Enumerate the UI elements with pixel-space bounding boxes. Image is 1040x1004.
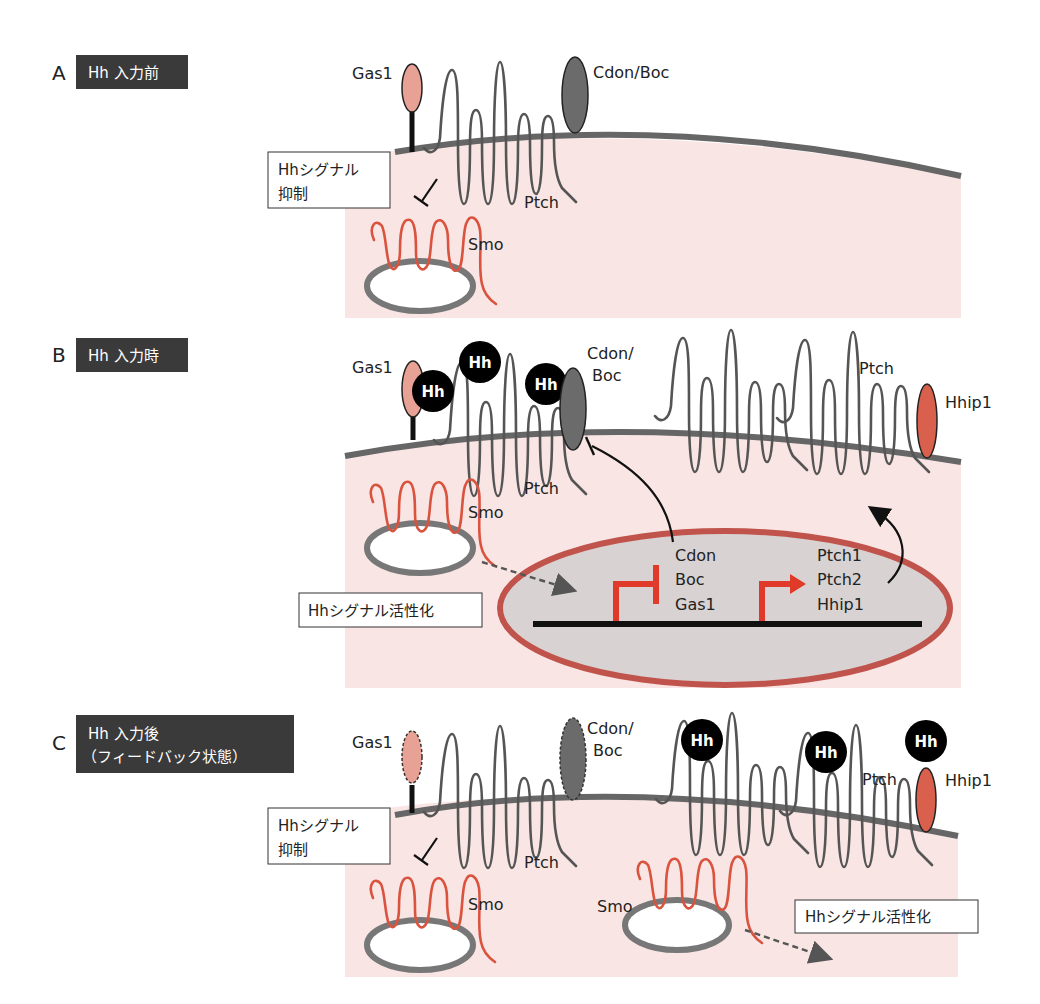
signal-inhibit-text-line2: 抑制 bbox=[278, 841, 308, 859]
nucleus bbox=[500, 531, 950, 685]
repressed-gene-gas1: Gas1 bbox=[675, 595, 716, 614]
cdon-boc-protein bbox=[562, 57, 588, 133]
signal-activate-text: Hhシグナル活性化 bbox=[308, 602, 434, 620]
smo-right-label: Smo bbox=[597, 897, 633, 916]
cdon-boc-label-line2: Boc bbox=[593, 741, 623, 760]
signal-activate-text: Hhシグナル活性化 bbox=[805, 908, 931, 926]
panel-b: B Hh 入力時 Gas1 Ptch Hh Hh Hh Cdon/ Boc bbox=[52, 330, 992, 688]
cdon-boc-label-line2: Boc bbox=[592, 366, 622, 385]
induced-gene-ptch1: Ptch1 bbox=[817, 546, 862, 565]
hh-ligand: Hh bbox=[905, 720, 947, 762]
hhip1-label: Hhip1 bbox=[945, 393, 992, 412]
repressed-gene-boc: Boc bbox=[675, 570, 705, 589]
smo-vesicle-right bbox=[625, 900, 729, 950]
repressed-gene-cdon: Cdon bbox=[675, 546, 716, 565]
cdon-boc-label: Cdon/Boc bbox=[593, 63, 669, 82]
ptch-right-label: Ptch bbox=[862, 770, 897, 789]
hhip1-protein bbox=[916, 768, 936, 832]
svg-text:Hh: Hh bbox=[468, 354, 491, 372]
ptch-label: Ptch bbox=[524, 193, 559, 212]
hh-ligand: Hh bbox=[459, 341, 501, 383]
panel-a: A Hh 入力前 Gas1 Ptch Cdon/Boc Smo Hhシグナル 抑… bbox=[52, 55, 961, 318]
gas1-protein-reduced bbox=[402, 731, 422, 783]
signal-inhibit-text-line1: Hhシグナル bbox=[278, 161, 359, 179]
panel-letter-b: B bbox=[52, 343, 66, 367]
smo-label: Smo bbox=[468, 503, 504, 522]
ptch-left-label: Ptch bbox=[524, 479, 559, 498]
panel-c: C Hh 入力後 （フィードバック状態） Gas1 Ptch Cdon/ Boc… bbox=[52, 713, 992, 977]
smo-label: Smo bbox=[468, 235, 504, 254]
signal-inhibit-text-line2: 抑制 bbox=[278, 185, 308, 203]
panel-c-tag-line2: （フィードバック状態） bbox=[82, 748, 247, 766]
cdon-boc-label-line1: Cdon/ bbox=[587, 344, 634, 363]
cdon-boc-protein bbox=[560, 368, 586, 450]
hh-ligand: Hh bbox=[805, 731, 847, 773]
panel-c-tag-line1: Hh 入力後 bbox=[88, 725, 159, 743]
panel-letter-a: A bbox=[52, 61, 66, 85]
gas1-label: Gas1 bbox=[352, 733, 393, 752]
hhip1-label: Hhip1 bbox=[945, 771, 992, 790]
svg-text:Hh: Hh bbox=[690, 732, 713, 750]
svg-text:Hh: Hh bbox=[814, 744, 837, 762]
svg-text:Hh: Hh bbox=[534, 376, 557, 394]
gas1-protein bbox=[402, 64, 422, 112]
gas1-label: Gas1 bbox=[352, 358, 393, 377]
smo-left-label: Smo bbox=[468, 895, 504, 914]
signal-inhibit-text-line1: Hhシグナル bbox=[278, 817, 359, 835]
svg-text:Hh: Hh bbox=[914, 733, 937, 751]
panel-letter-c: C bbox=[52, 731, 66, 755]
ptch-left-label: Ptch bbox=[524, 853, 559, 872]
ptch-right-label: Ptch bbox=[859, 359, 894, 378]
induced-gene-hhip1: Hhip1 bbox=[817, 595, 864, 614]
hhip1-protein bbox=[917, 384, 937, 458]
gas1-label: Gas1 bbox=[352, 64, 393, 83]
cdon-boc-protein-reduced bbox=[560, 718, 586, 800]
induced-gene-ptch2: Ptch2 bbox=[817, 570, 862, 589]
hh-ligand: Hh bbox=[681, 719, 723, 761]
panel-b-tag: Hh 入力時 bbox=[88, 347, 159, 365]
hedgehog-signaling-diagram: A Hh 入力前 Gas1 Ptch Cdon/Boc Smo Hhシグナル 抑… bbox=[0, 0, 1040, 1004]
cdon-boc-label-line1: Cdon/ bbox=[587, 719, 634, 738]
hh-ligand: Hh bbox=[412, 370, 454, 412]
panel-a-tag: Hh 入力前 bbox=[88, 64, 159, 82]
svg-text:Hh: Hh bbox=[421, 383, 444, 401]
